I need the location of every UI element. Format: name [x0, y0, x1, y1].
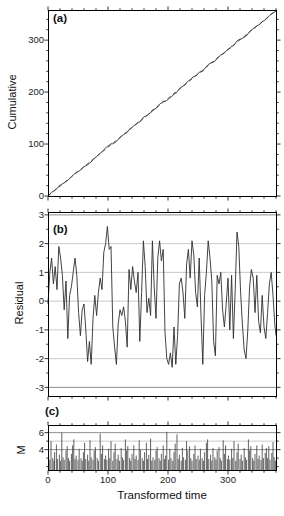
panel-b-label: (b) — [53, 223, 68, 235]
panel-b-frame — [49, 213, 277, 397]
panel-a-ytick-label: 0 — [39, 190, 44, 201]
magnitude-stems — [49, 432, 276, 470]
panel-a-ytick-label: 100 — [28, 138, 44, 149]
panel-b-ytick-label: 3 — [39, 209, 44, 220]
panel-c-ytick-label: 4 — [39, 444, 44, 455]
panel-a-y-axis-title: Cumulative — [6, 57, 18, 147]
panel-b-ytick-label: -3 — [36, 382, 44, 393]
panel-b-y-axis-title: Residual — [13, 263, 25, 343]
panel-c-xtick-label: 100 — [100, 474, 116, 485]
panel-c-label: (c) — [45, 405, 59, 417]
panel-b-ytick-label: 0 — [39, 295, 44, 306]
panel-a-ytick-label: 300 — [28, 34, 44, 45]
figure-canvas: 0100200300-3-2-10123460100200300 — [0, 0, 284, 516]
panel-c-xtick-label: 200 — [160, 474, 176, 485]
panel-b-ytick-label: 2 — [39, 238, 44, 249]
panel-b-ytick-label: 1 — [39, 267, 44, 278]
panel-a-ytick-label: 200 — [28, 86, 44, 97]
panel-b-ytick-label: -2 — [36, 353, 44, 364]
panel-c-xtick-label: 0 — [45, 474, 50, 485]
panel-c-y-axis-title: M — [15, 435, 27, 465]
panel-c-ytick-label: 6 — [39, 427, 44, 438]
panel-b-ytick-label: -1 — [36, 324, 44, 335]
panel-c-xtick-label: 300 — [220, 474, 236, 485]
x-axis-title: Transformed time — [48, 489, 276, 501]
panel-a-label: (a) — [53, 12, 67, 24]
residual-line — [48, 226, 276, 367]
figure: 0100200300-3-2-10123460100200300 (a) (b)… — [0, 0, 284, 516]
